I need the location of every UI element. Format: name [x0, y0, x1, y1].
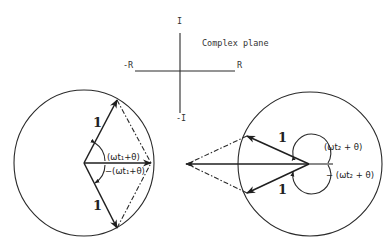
left-lower-angle-label: −(ωt₁+θ)	[105, 166, 145, 176]
left-upper-angle-label: (ωt₁+θ)	[107, 152, 140, 162]
axis-label-neg-imag: -I	[176, 113, 186, 123]
left-lower-angle-arc	[95, 165, 105, 183]
right-lower-magnitude-label: 1	[278, 182, 287, 197]
right-phasor-diagram: 1 1 (ωt₂ + θ) − (ωt₂ + θ)	[186, 92, 382, 236]
axis-label-pos-imag: I	[177, 16, 182, 26]
left-phasor-diagram: 1 1 (ωt₁+θ) −(ωt₁+θ)	[14, 90, 154, 236]
axis-label-pos-real: R	[237, 60, 243, 70]
complex-plane-title: Complex plane	[202, 38, 269, 48]
phasor-diagram: I -I -R R Complex plane 1 1 (ωt₁+θ) −(ωt…	[0, 0, 391, 250]
complex-plane-axes: I -I -R R Complex plane	[123, 16, 269, 123]
right-upper-angle-label: (ωt₂ + θ)	[324, 142, 362, 152]
left-upper-angle-arc	[95, 143, 105, 161]
axis-label-neg-real: -R	[123, 60, 134, 70]
left-upper-magnitude-label: 1	[93, 115, 102, 130]
left-lower-magnitude-label: 1	[93, 198, 102, 213]
right-lower-angle-label: − (ωt₂ + θ)	[326, 170, 374, 180]
right-upper-magnitude-label: 1	[278, 130, 287, 145]
